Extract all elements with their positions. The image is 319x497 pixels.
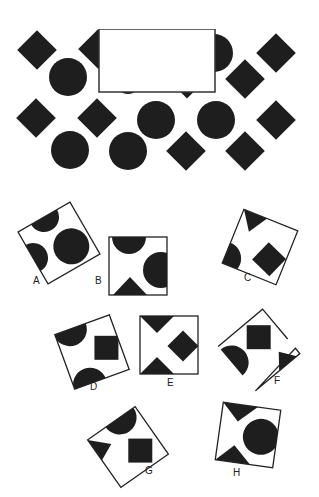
diamond-shape [256, 33, 296, 73]
option-b-tile[interactable] [109, 220, 179, 295]
option-a-label: A [33, 276, 40, 286]
diamond-shape [225, 131, 265, 171]
circle-shape [49, 58, 87, 96]
missing-piece-box [99, 29, 215, 92]
diamond-shape [166, 131, 206, 171]
option-a-tile[interactable] [0, 189, 100, 291]
puzzle-stage: A B C D E F G H [0, 0, 319, 497]
diamond-shape [17, 30, 57, 70]
option-f-label: F [274, 376, 280, 386]
puzzle-figure [0, 0, 319, 497]
circle-shape [109, 132, 147, 170]
option-g-label: G [145, 466, 153, 476]
diamond-shape [16, 98, 56, 138]
option-g-tile[interactable] [78, 393, 169, 488]
option-f-tile[interactable] [205, 309, 300, 402]
circle-shape [51, 131, 89, 169]
option-e-tile[interactable] [140, 316, 199, 374]
diamond-shape [225, 59, 265, 99]
option-d-label: D [90, 382, 97, 392]
option-c-label: C [244, 273, 251, 283]
option-h-tile[interactable] [215, 402, 282, 468]
circle-shape [197, 101, 235, 139]
option-h-label: H [233, 468, 240, 478]
diamond-shape [256, 100, 296, 140]
circle-shape [137, 101, 175, 139]
option-e-label: E [167, 378, 174, 388]
diamond-shape [77, 98, 117, 138]
option-b-label: B [95, 276, 102, 286]
